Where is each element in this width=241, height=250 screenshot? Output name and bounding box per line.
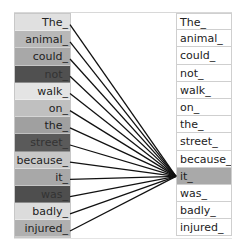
attention-line xyxy=(70,59,176,176)
attention-line xyxy=(70,25,176,177)
attention-line xyxy=(70,176,176,179)
target-token[interactable]: because_ xyxy=(176,151,232,168)
source-token[interactable]: animal_ xyxy=(15,31,70,48)
target-token[interactable]: animal_ xyxy=(176,30,232,47)
source-token[interactable]: the_ xyxy=(15,117,70,134)
attention-line xyxy=(70,176,176,231)
attention-line xyxy=(70,162,176,176)
source-token[interactable]: walk_ xyxy=(15,83,70,100)
attention-line xyxy=(70,176,176,213)
target-token[interactable]: on_ xyxy=(176,99,232,116)
target-token-selected[interactable]: it_ xyxy=(176,168,232,185)
source-token[interactable]: The_ xyxy=(15,14,70,31)
source-token[interactable]: on_ xyxy=(15,100,70,117)
attention-line xyxy=(70,128,176,177)
target-token[interactable]: injured_ xyxy=(176,219,232,236)
target-token[interactable]: the_ xyxy=(176,116,232,133)
source-token[interactable]: street_ xyxy=(15,134,70,151)
target-token[interactable]: street_ xyxy=(176,133,232,150)
target-token[interactable]: not_ xyxy=(176,65,232,82)
target-token[interactable]: was_ xyxy=(176,185,232,202)
source-token[interactable]: could_ xyxy=(15,48,70,65)
attention-line xyxy=(70,145,176,176)
target-token[interactable]: The_ xyxy=(176,13,232,30)
source-token[interactable]: injured_ xyxy=(15,220,70,237)
target-token[interactable]: could_ xyxy=(176,47,232,64)
target-token-column: The_animal_could_not_walk_on_the_street_… xyxy=(176,13,232,236)
attention-line xyxy=(70,176,176,196)
target-token[interactable]: walk_ xyxy=(176,82,232,99)
attention-line xyxy=(70,111,176,177)
attention-line xyxy=(70,76,176,176)
source-token[interactable]: not_ xyxy=(15,66,70,83)
source-token[interactable]: was_ xyxy=(15,186,70,203)
source-token[interactable]: badly_ xyxy=(15,203,70,220)
source-token[interactable]: because_ xyxy=(15,152,70,169)
attention-line xyxy=(70,42,176,177)
target-token[interactable]: badly_ xyxy=(176,202,232,219)
attention-line xyxy=(70,93,176,176)
source-token[interactable]: it_ xyxy=(15,169,70,186)
source-token-column: The_animal_could_not_walk_on_the_street_… xyxy=(14,13,71,238)
